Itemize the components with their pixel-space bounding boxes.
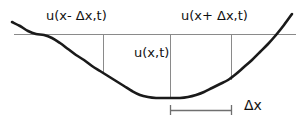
label-u-x-plus-delta-x-t: u(x+ Δx,t) xyxy=(181,9,248,23)
wave-stencil-figure: u(x- Δx,t) u(x+ Δx,t) u(x,t) Δx xyxy=(0,0,304,126)
label-u-x-minus-delta-x-t: u(x- Δx,t) xyxy=(46,9,107,23)
label-u-x-t: u(x,t) xyxy=(134,46,169,60)
delta-x-measure-bar xyxy=(170,105,232,115)
label-delta-x: Δx xyxy=(244,98,262,112)
